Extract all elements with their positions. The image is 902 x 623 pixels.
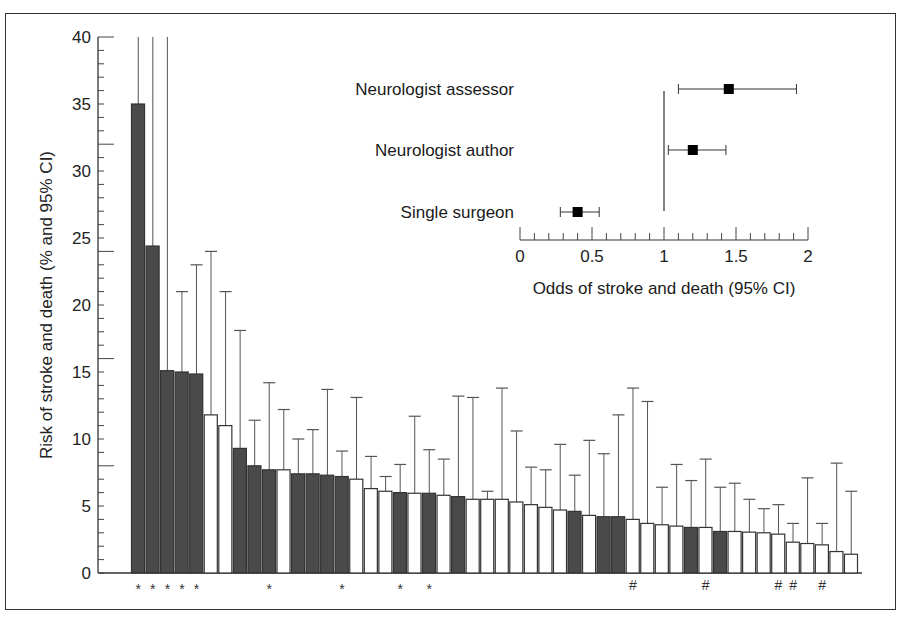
hash-marker: # [775, 577, 783, 593]
inset-x-tick-label: 0 [515, 247, 524, 266]
asterisk-marker: * [427, 581, 433, 597]
bar-open [728, 531, 741, 573]
bar-shaded [452, 497, 465, 573]
bar-shaded [393, 493, 406, 573]
bar-open [364, 489, 377, 573]
inset-x-axis-title: Odds of stroke and death (95% CI) [533, 279, 796, 298]
bar-open [277, 470, 290, 573]
bar-open [466, 499, 479, 573]
bar-shaded [233, 448, 246, 573]
asterisk-marker: * [339, 581, 345, 597]
bar-shaded [190, 374, 203, 573]
bar-series [132, 37, 858, 573]
hash-marker: # [818, 577, 826, 593]
inset-forest-plot: 00.511.52Neurologist assessorNeurologist… [355, 80, 812, 266]
asterisk-marker: * [194, 581, 200, 597]
bar-open [437, 495, 450, 573]
bar-open [408, 493, 421, 573]
bar-open [786, 542, 799, 573]
inset-point-estimate [688, 145, 698, 155]
bar-shaded [423, 493, 436, 573]
y-tick-label: 20 [72, 296, 91, 315]
bar-chart-with-inset-forest-plot: 0510152025303540 *********##### Risk of … [0, 0, 902, 623]
hash-marker: # [789, 577, 797, 593]
bar-open [757, 533, 770, 573]
y-tick-label: 0 [82, 564, 91, 583]
hash-marker: # [702, 577, 710, 593]
bar-open [204, 415, 217, 573]
hash-marker: # [629, 577, 637, 593]
bar-open [655, 525, 668, 573]
inset-x-tick-label: 1 [659, 247, 668, 266]
bar-open [379, 491, 392, 573]
bar-open [699, 527, 712, 573]
inset-x-tick-label: 1.5 [724, 247, 748, 266]
bar-open [553, 510, 566, 573]
bar-open [539, 507, 552, 573]
bar-open [670, 526, 683, 573]
bar-open [219, 426, 232, 573]
bar-shaded [262, 470, 275, 573]
y-tick-label: 5 [82, 497, 91, 516]
asterisk-marker: * [179, 581, 185, 597]
inset-row-label: Single surgeon [401, 203, 514, 222]
bar-shaded [306, 474, 319, 573]
asterisk-marker: * [397, 581, 403, 597]
asterisk-marker: * [165, 581, 171, 597]
asterisk-marker: * [266, 581, 272, 597]
bar-open [772, 534, 785, 573]
bar-shaded [132, 104, 145, 573]
y-tick-label: 40 [72, 28, 91, 47]
bar-shaded [568, 511, 581, 573]
inset-row-label: Neurologist assessor [355, 80, 514, 99]
bar-open [641, 523, 654, 573]
bar-open [495, 499, 508, 573]
bar-open [524, 505, 537, 573]
asterisk-marker: * [150, 581, 156, 597]
bar-shaded [146, 246, 159, 573]
bar-open [510, 502, 523, 573]
inset-point-estimate [573, 207, 583, 217]
asterisk-marker: * [136, 581, 142, 597]
y-tick-label: 10 [72, 430, 91, 449]
significance-markers: *********##### [136, 577, 827, 597]
y-tick-label: 15 [72, 363, 91, 382]
y-tick-label: 30 [72, 162, 91, 181]
bar-shaded [612, 517, 625, 573]
bar-open [801, 544, 814, 573]
inset-row-label: Neurologist author [375, 141, 514, 160]
bar-open [743, 532, 756, 573]
y-tick-label: 35 [72, 95, 91, 114]
bar-shaded [597, 517, 610, 573]
bar-open [481, 499, 494, 573]
bar-shaded [321, 475, 334, 573]
bar-open [350, 479, 363, 573]
bar-shaded [292, 474, 305, 573]
bar-open [583, 515, 596, 573]
bar-shaded [161, 371, 174, 573]
bar-open [626, 519, 639, 573]
bar-shaded [248, 466, 261, 573]
bar-open [815, 545, 828, 573]
y-tick-label: 25 [72, 229, 91, 248]
bar-shaded [714, 531, 727, 573]
bar-open [844, 554, 857, 573]
inset-x-tick-label: 2 [803, 247, 812, 266]
bar-shaded [175, 372, 188, 573]
bar-shaded [684, 527, 697, 573]
bar-open [830, 552, 843, 573]
bar-shaded [335, 477, 348, 573]
inset-x-tick-label: 0.5 [580, 247, 604, 266]
inset-point-estimate [724, 84, 734, 94]
y-axis-title: Risk of stroke and death (% and 95% CI) [37, 151, 56, 459]
